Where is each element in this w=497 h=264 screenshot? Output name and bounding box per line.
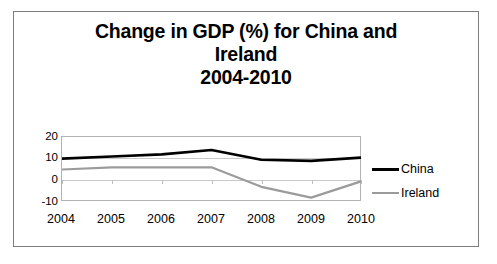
- x-tick-label-2005: 2005: [88, 212, 134, 226]
- y-axis-labels: 20 10 0 -10: [16, 136, 58, 201]
- legend-item-ireland: Ireland: [372, 181, 472, 205]
- x-tick-label-2007: 2007: [188, 212, 234, 226]
- y-tick-label-neg10: -10: [22, 196, 58, 207]
- x-axis-labels: 2004 2005 2006 2007 2008 2009 2010: [61, 212, 361, 232]
- plot-area: [61, 136, 361, 201]
- series-lines: [62, 137, 362, 202]
- x-tick-label-2004: 2004: [38, 212, 84, 226]
- legend-item-china: China: [372, 157, 472, 181]
- x-tick-label-2008: 2008: [238, 212, 284, 226]
- y-tick-label-10: 10: [22, 152, 58, 163]
- x-tick-label-2006: 2006: [138, 212, 184, 226]
- legend-line-swatch-ireland-icon: [372, 192, 399, 194]
- plot-region: 20 10 0 -10 2004 2005 2006 20: [14, 12, 478, 246]
- x-tick-label-2009: 2009: [288, 212, 334, 226]
- y-tick-label-0: 0: [22, 174, 58, 185]
- y-tick-label-20: 20: [22, 131, 58, 142]
- x-tick-label-2010: 2010: [338, 212, 384, 226]
- legend-line-swatch-china-icon: [372, 168, 399, 171]
- chart-legend: China Ireland: [372, 157, 472, 205]
- chart-figure: Change in GDP (%) for China and Ireland …: [13, 11, 479, 247]
- series-line-china: [62, 150, 361, 161]
- series-line-ireland: [62, 167, 361, 197]
- legend-label-ireland: Ireland: [401, 186, 439, 200]
- legend-label-china: China: [401, 162, 434, 176]
